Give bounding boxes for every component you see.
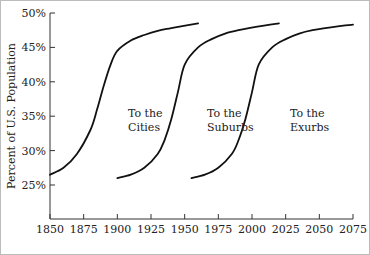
label-to-the-suburbs: To the <box>207 107 242 120</box>
curve-to-the-exurbs <box>191 25 353 178</box>
y-tick-label: 40% <box>22 76 46 89</box>
series-labels: To theCitiesTo theSuburbsTo theExurbs <box>128 107 330 134</box>
label-to-the-cities: Cities <box>128 121 160 134</box>
y-tick-label: 35% <box>22 110 46 123</box>
x-tick-label: 2000 <box>238 223 266 236</box>
curve-to-the-suburbs <box>117 23 279 178</box>
x-tick-label: 1875 <box>70 223 98 236</box>
series-curves <box>50 23 353 178</box>
y-axis-label: Percent of U.S. Population <box>5 43 18 189</box>
line-chart: 25%30%35%40%45%50% 185018751900192519501… <box>0 0 370 255</box>
label-to-the-exurbs: To the <box>290 107 325 120</box>
label-to-the-exurbs: Exurbs <box>290 121 330 134</box>
label-to-the-cities: To the <box>128 107 163 120</box>
y-tick-label: 50% <box>22 7 46 20</box>
x-tick-label: 1950 <box>171 223 199 236</box>
x-tick-label: 2050 <box>305 223 333 236</box>
x-tick-label: 2075 <box>339 223 367 236</box>
y-tick-label: 30% <box>22 145 46 158</box>
label-to-the-suburbs: Suburbs <box>207 121 254 134</box>
x-tick-label: 1850 <box>36 223 64 236</box>
x-axis-ticks: 1850187519001925195019752000202520502075 <box>36 214 367 236</box>
x-tick-label: 1900 <box>103 223 131 236</box>
x-tick-label: 2025 <box>272 223 300 236</box>
x-tick-label: 1925 <box>137 223 165 236</box>
x-tick-label: 1975 <box>204 223 232 236</box>
y-tick-label: 25% <box>22 179 46 192</box>
y-tick-label: 45% <box>22 41 46 54</box>
